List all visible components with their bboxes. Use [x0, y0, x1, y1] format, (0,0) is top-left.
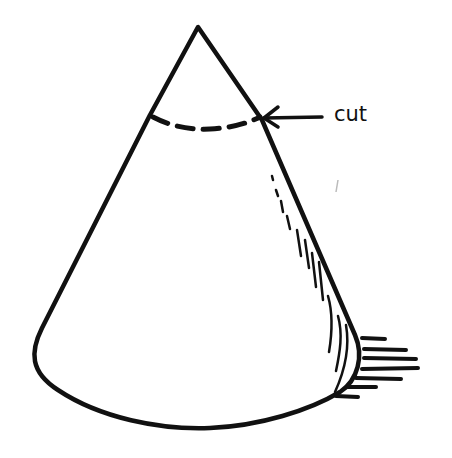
- shading-hatches: [272, 176, 347, 392]
- arrow-shaft: [264, 117, 322, 118]
- cut-line: [153, 117, 260, 129]
- stray-mark: [336, 180, 338, 192]
- cone-drawing: [0, 0, 452, 458]
- cone-outline: [34, 27, 359, 428]
- cut-label: cut: [334, 104, 367, 125]
- cone-illustration: cut: [0, 0, 452, 458]
